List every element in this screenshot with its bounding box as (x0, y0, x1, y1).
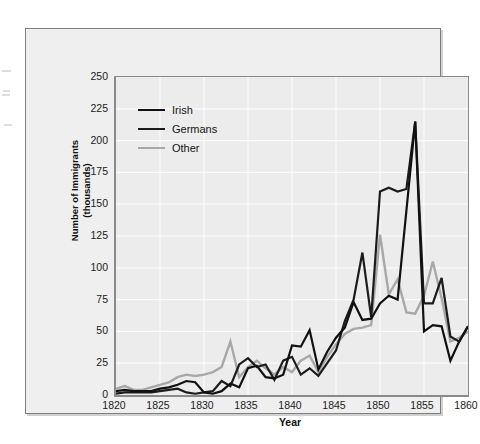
y-axis-title-line1: Number of Immigrants (69, 131, 81, 251)
y-tick-label: 250 (64, 71, 108, 81)
legend-item-germans[interactable]: Germans (138, 122, 217, 135)
x-tick-label: 1860 (446, 399, 480, 411)
y-tick-label: 100 (64, 262, 108, 272)
x-tick-label: 1845 (314, 399, 354, 411)
chart-legend: IrishGermansOther (138, 103, 217, 154)
x-tick-label: 1820 (94, 399, 134, 411)
x-axis-title: Year (114, 416, 466, 428)
legend-item-other[interactable]: Other (138, 141, 217, 154)
legend-line-swatch-icon (138, 128, 165, 130)
chart-figure: 0255075100125150175200225250 Number of I… (25, 28, 441, 414)
x-tick-label: 1850 (358, 399, 398, 411)
y-axis-title: Number of Immigrants (thousands) (69, 131, 92, 251)
y-tick-label: 50 (64, 325, 108, 335)
y-axis-title-line2: (thousands) (80, 131, 92, 251)
x-tick-label: 1855 (402, 399, 442, 411)
x-tick-label: 1830 (182, 399, 222, 411)
y-tick-label: 75 (64, 294, 108, 304)
legend-item-label: Germans (172, 123, 217, 135)
x-tick-label: 1835 (226, 399, 266, 411)
legend-item-irish[interactable]: Irish (138, 103, 217, 116)
x-tick-label: 1825 (138, 399, 178, 411)
legend-line-swatch-icon (138, 109, 165, 111)
y-tick-label: 0 (64, 389, 108, 399)
y-tick-label: 25 (64, 357, 108, 367)
legend-item-label: Other (172, 142, 200, 154)
x-axis-ticks: 182018251830183518401845185018551860 (114, 399, 468, 413)
scan-artifact-left (2, 68, 14, 138)
legend-line-swatch-icon (138, 147, 165, 149)
y-tick-label: 225 (64, 103, 108, 113)
legend-item-label: Irish (172, 104, 193, 116)
x-tick-label: 1840 (270, 399, 310, 411)
